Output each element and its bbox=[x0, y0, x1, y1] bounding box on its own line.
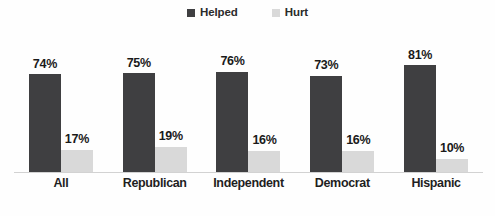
bar-column-hurt[interactable]: 10% bbox=[436, 28, 468, 172]
bar-column-hurt[interactable]: 17% bbox=[61, 28, 93, 172]
legend-label-hurt: Hurt bbox=[285, 7, 308, 19]
bar-column-hurt[interactable]: 19% bbox=[155, 28, 187, 172]
bar-column-hurt[interactable]: 16% bbox=[342, 28, 374, 172]
legend-item-hurt: Hurt bbox=[272, 7, 308, 19]
bar-hurt[interactable] bbox=[436, 159, 468, 172]
bar-value-label: 17% bbox=[65, 133, 89, 146]
bar-group: 74%17% bbox=[14, 28, 108, 172]
bar-value-label: 73% bbox=[314, 59, 338, 72]
bar-column-helped[interactable]: 76% bbox=[216, 28, 248, 172]
plot-area: 74%17%75%19%76%16%73%16%81%10% bbox=[0, 28, 495, 173]
square-swatch-icon bbox=[272, 9, 280, 17]
category-label-independent: Independent bbox=[202, 177, 296, 190]
category-label-all: All bbox=[14, 177, 108, 190]
legend-item-helped: Helped bbox=[187, 7, 238, 19]
bar-helped[interactable] bbox=[29, 74, 61, 172]
bar-helped[interactable] bbox=[404, 65, 436, 172]
bar-helped[interactable] bbox=[310, 76, 342, 172]
bar-value-label: 19% bbox=[159, 130, 183, 143]
bar-value-label: 16% bbox=[252, 134, 276, 147]
bar-column-helped[interactable]: 81% bbox=[404, 28, 436, 172]
bar-groups: 74%17%75%19%76%16%73%16%81%10% bbox=[14, 28, 483, 172]
bar-value-label: 74% bbox=[33, 58, 57, 71]
bar-group: 73%16% bbox=[295, 28, 389, 172]
bar-hurt[interactable] bbox=[61, 150, 93, 172]
bar-column-hurt[interactable]: 16% bbox=[248, 28, 280, 172]
bar-value-label: 16% bbox=[346, 134, 370, 147]
bar-value-label: 10% bbox=[440, 142, 464, 155]
bar-chart: Helped Hurt 74%17%75%19%76%16%73%16%81%1… bbox=[0, 0, 495, 216]
square-swatch-icon bbox=[187, 9, 195, 17]
bar-helped[interactable] bbox=[216, 72, 248, 172]
bar-column-helped[interactable]: 74% bbox=[29, 28, 61, 172]
bar-group: 76%16% bbox=[202, 28, 296, 172]
bar-column-helped[interactable]: 75% bbox=[123, 28, 155, 172]
bar-pair: 75%19% bbox=[108, 28, 202, 172]
bar-hurt[interactable] bbox=[342, 151, 374, 172]
bar-value-label: 76% bbox=[220, 55, 244, 68]
legend-label-helped: Helped bbox=[200, 7, 238, 19]
bar-hurt[interactable] bbox=[248, 151, 280, 172]
category-label-democrat: Democrat bbox=[295, 177, 389, 190]
bar-column-helped[interactable]: 73% bbox=[310, 28, 342, 172]
bar-value-label: 75% bbox=[127, 57, 151, 70]
bar-pair: 81%10% bbox=[389, 28, 483, 172]
bar-pair: 76%16% bbox=[202, 28, 296, 172]
bar-group: 75%19% bbox=[108, 28, 202, 172]
bar-hurt[interactable] bbox=[155, 147, 187, 172]
axis-baseline bbox=[14, 172, 483, 173]
chart-legend: Helped Hurt bbox=[0, 7, 495, 19]
category-labels: AllRepublicanIndependentDemocratHispanic bbox=[14, 177, 483, 190]
bar-helped[interactable] bbox=[123, 73, 155, 172]
bar-pair: 73%16% bbox=[295, 28, 389, 172]
bar-group: 81%10% bbox=[389, 28, 483, 172]
category-label-hispanic: Hispanic bbox=[389, 177, 483, 190]
category-label-republican: Republican bbox=[108, 177, 202, 190]
bar-value-label: 81% bbox=[408, 49, 432, 62]
bar-pair: 74%17% bbox=[14, 28, 108, 172]
